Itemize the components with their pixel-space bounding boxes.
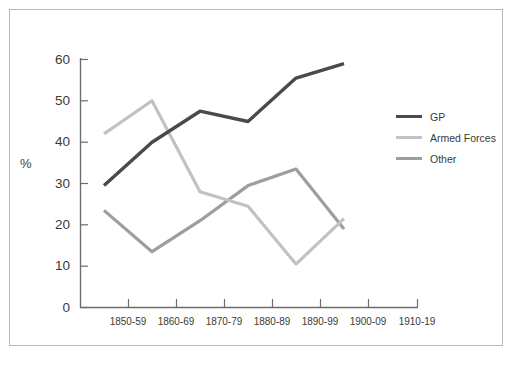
y-tick-label-10: 10 bbox=[44, 258, 70, 273]
legend-label-other: Other bbox=[430, 153, 456, 165]
y-tick-label-60: 60 bbox=[44, 52, 70, 67]
legend-swatch-gp bbox=[396, 115, 422, 118]
y-tick-label-50: 50 bbox=[44, 93, 70, 108]
series-line-other bbox=[104, 169, 344, 252]
y-tick-label-40: 40 bbox=[44, 134, 70, 149]
y-axis-label: % bbox=[20, 156, 32, 171]
x-tick-label-1910-19: 1910-19 bbox=[391, 316, 443, 327]
series-line-gp bbox=[104, 64, 344, 186]
legend-item-armed-forces[interactable]: Armed Forces bbox=[396, 127, 496, 148]
x-tick-label-1850-59: 1850-59 bbox=[102, 316, 154, 327]
x-tick-label-1900-09: 1900-09 bbox=[342, 316, 394, 327]
legend-label-gp: GP bbox=[430, 111, 445, 123]
y-tick-label-30: 30 bbox=[44, 176, 70, 191]
x-tick-label-1860-69: 1860-69 bbox=[150, 316, 202, 327]
legend-item-gp[interactable]: GP bbox=[396, 106, 496, 127]
x-tick-marks bbox=[129, 299, 418, 308]
chart-legend: GP Armed Forces Other bbox=[396, 106, 496, 169]
x-tick-label-1870-79: 1870-79 bbox=[198, 316, 250, 327]
legend-swatch-armed-forces bbox=[396, 136, 422, 139]
x-tick-label-1890-99: 1890-99 bbox=[294, 316, 346, 327]
legend-label-armed-forces: Armed Forces bbox=[430, 132, 496, 144]
y-tick-label-0: 0 bbox=[44, 300, 70, 315]
y-tick-label-20: 20 bbox=[44, 217, 70, 232]
legend-item-other[interactable]: Other bbox=[396, 148, 496, 169]
x-tick-label-1880-89: 1880-89 bbox=[246, 316, 298, 327]
legend-swatch-other bbox=[396, 157, 422, 160]
